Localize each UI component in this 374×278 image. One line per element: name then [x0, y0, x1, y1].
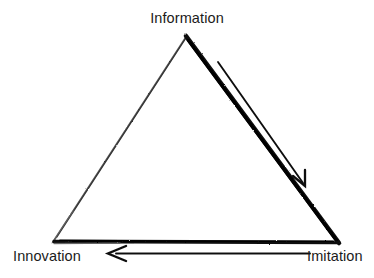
vertex-label-innovation: Innovation [13, 248, 81, 264]
diagram-canvas: Information Innovation Imitation [0, 0, 374, 278]
triangle-diagram-graphic [0, 0, 374, 278]
vertex-label-imitation: Imitation [307, 248, 363, 264]
edge-innovation-imitation [54, 241, 338, 244]
vertex-label-information: Information [0, 10, 374, 26]
